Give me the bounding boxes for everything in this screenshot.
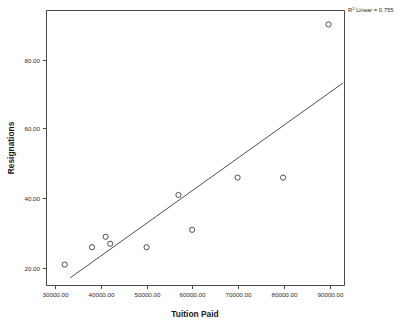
data-point <box>235 175 240 180</box>
data-point <box>280 175 285 180</box>
x-tick-label-90000: 90000.00 <box>318 291 344 298</box>
data-point <box>189 227 194 232</box>
y-axis-ticks: 80.00 60.00 40.00 20.00 <box>25 57 47 272</box>
x-tick-label-80000: 80000.00 <box>272 291 298 298</box>
linear-fit-line <box>70 83 343 278</box>
x-tick-label-60000: 60000.00 <box>180 291 206 298</box>
chart-canvas: 80.00 60.00 40.00 20.00 30000.00 40000.0… <box>0 0 400 324</box>
x-tick-label-30000: 30000.00 <box>43 291 69 298</box>
scatter-plot-figure: 80.00 60.00 40.00 20.00 30000.00 40000.0… <box>0 0 400 324</box>
x-tick-label-70000: 70000.00 <box>226 291 252 298</box>
y-tick-label-20: 20.00 <box>25 265 41 272</box>
data-point <box>326 22 331 27</box>
x-tick-label-40000: 40000.00 <box>89 291 115 298</box>
data-point <box>108 241 113 246</box>
data-point <box>103 234 108 239</box>
r-squared-annotation: R2 Linear = 0.755 <box>348 6 393 13</box>
y-tick-label-60: 60.00 <box>25 125 41 132</box>
y-tick-label-80: 80.00 <box>25 57 41 64</box>
x-axis-ticks: 30000.00 40000.00 50000.00 60000.00 7000… <box>43 286 344 299</box>
y-tick-label-40: 40.00 <box>25 195 41 202</box>
r-squared-text: Linear = 0.755 <box>355 7 394 13</box>
data-point <box>89 245 94 250</box>
data-point-markers <box>62 22 331 267</box>
x-axis-title: Tuition Paid <box>171 309 218 319</box>
data-point <box>176 192 181 197</box>
y-axis-title: Resignations <box>6 121 16 174</box>
data-point <box>62 262 67 267</box>
data-point <box>144 245 149 250</box>
plot-frame <box>47 11 345 286</box>
x-tick-label-50000: 50000.00 <box>135 291 161 298</box>
